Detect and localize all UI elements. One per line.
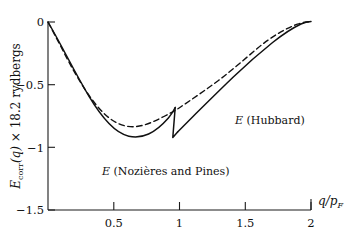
annotation-hubbard-E: E [234, 114, 243, 127]
x-axis-title-F: F [336, 201, 343, 210]
annotation-np-text: (Nozières and Pines) [114, 165, 230, 178]
y-tick-label-neg-1: −1 [27, 141, 44, 155]
svg-text:Ecorr(q) × 18.2 rydbergs: Ecorr(q) × 18.2 rydbergs [9, 43, 25, 190]
curve-hubbard [48, 22, 311, 127]
x-axis-ticks [114, 202, 311, 210]
x-tick-label-1: 1 [176, 216, 183, 230]
x-tick-label-0-5: 0.5 [105, 216, 123, 230]
annotation-np-E: E [101, 165, 110, 178]
y-axis-title-arg: (q) [9, 146, 23, 163]
figure-container: 0 −0.5 −1 −1.5 0.5 1 1.5 2 Ecorr(q) × 18… [0, 0, 350, 242]
x-tick-labels: 0.5 1 1.5 2 [105, 216, 315, 230]
correlation-energy-chart: 0 −0.5 −1 −1.5 0.5 1 1.5 2 Ecorr(q) × 18… [0, 0, 350, 242]
y-axis-title-units: × 18.2 rydbergs [9, 43, 23, 142]
annotation-hubbard-text: (Hubbard) [247, 114, 305, 127]
y-tick-label-0: 0 [37, 15, 44, 29]
y-axis-title-E: E [9, 180, 23, 190]
y-axis-ticks [48, 22, 55, 210]
y-axis-title-sub: corr [16, 163, 25, 180]
x-axis-title: q/pF [318, 194, 343, 210]
svg-text:q/pF: q/pF [318, 194, 343, 210]
svg-text:E (Nozières and Pines): E (Nozières and Pines) [101, 165, 229, 178]
svg-text:E (Hubbard): E (Hubbard) [234, 114, 305, 127]
annotation-hubbard: E (Hubbard) [234, 114, 305, 127]
y-axis-title: Ecorr(q) × 18.2 rydbergs [9, 43, 25, 190]
annotation-nozieres-pines: E (Nozières and Pines) [101, 165, 229, 178]
x-tick-label-1-5: 1.5 [236, 216, 254, 230]
y-tick-label-neg-1-5: −1.5 [16, 203, 44, 217]
x-tick-label-2: 2 [307, 216, 314, 230]
